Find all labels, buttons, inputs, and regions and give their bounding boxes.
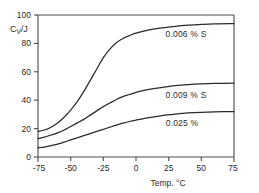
series-label-0: 0.006 % S	[165, 29, 206, 39]
chart-container: 0 20 40 60 80 100 -75 -50 -25 0 25 50 75	[0, 0, 259, 193]
x-tick-label-75: 75	[228, 163, 238, 173]
x-axis-title: Temp. °C	[150, 178, 185, 188]
y-tick-label-0: 0	[26, 152, 31, 162]
y-axis-title: CV/J	[10, 24, 28, 35]
x-tick-label-minus25: -25	[97, 163, 110, 173]
curve-series-2	[38, 112, 234, 148]
y-axis-title-rest: /J	[21, 24, 28, 34]
x-axis-tick-labels: -75 -50 -25 0 25 50 75	[33, 163, 238, 173]
x-tick-label-50: 50	[197, 163, 207, 173]
y-axis-ticks	[34, 15, 38, 157]
x-tick-label-minus75: -75	[33, 163, 46, 173]
x-tick-label-25: 25	[164, 163, 174, 173]
curve-series-0	[38, 24, 234, 132]
y-tick-label-100: 100	[17, 10, 31, 20]
x-tick-label-0: 0	[134, 163, 139, 173]
series-label-1: 0.009 % S	[165, 90, 206, 100]
y-tick-label-20: 20	[22, 124, 32, 134]
y-tick-label-60: 60	[22, 67, 32, 77]
y-tick-label-40: 40	[22, 95, 32, 105]
x-tick-label-minus50: -50	[65, 163, 78, 173]
heat-capacity-vs-temperature-chart: 0 20 40 60 80 100 -75 -50 -25 0 25 50 75	[0, 0, 259, 193]
y-tick-label-80: 80	[22, 38, 32, 48]
series-label-2: 0.025 %	[166, 118, 199, 128]
data-curves	[38, 24, 234, 148]
x-axis-ticks	[38, 157, 234, 162]
